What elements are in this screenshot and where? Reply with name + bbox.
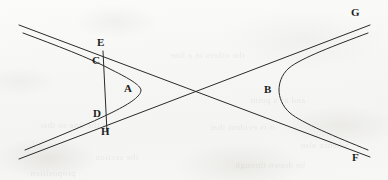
point-label-d: D (93, 108, 101, 119)
transversal-eh-line (103, 51, 107, 132)
hyperbola-figure: the others in a lineand of a pointof the… (0, 0, 388, 180)
point-label-a: A (124, 83, 132, 94)
point-label-e: E (97, 37, 105, 48)
right-hyperbola-branch (279, 33, 368, 150)
point-label-b: B (264, 84, 272, 95)
point-label-h: H (101, 126, 110, 137)
point-label-f: F (352, 152, 359, 163)
figure-drawing (0, 0, 388, 180)
point-label-g: G (351, 7, 360, 18)
point-label-c: C (92, 55, 100, 66)
